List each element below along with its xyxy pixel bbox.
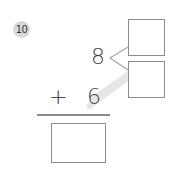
decompose-box-top[interactable] — [128, 19, 165, 56]
problem-number-badge: 10 — [13, 21, 30, 38]
branch-lines — [110, 47, 128, 70]
decompose-box-bottom[interactable] — [128, 61, 165, 98]
plus-sign: + — [49, 86, 67, 108]
addend-top: 8 — [91, 46, 105, 68]
answer-box[interactable] — [51, 123, 106, 163]
addend-bottom: 6 — [87, 86, 101, 108]
sum-line — [37, 114, 110, 116]
